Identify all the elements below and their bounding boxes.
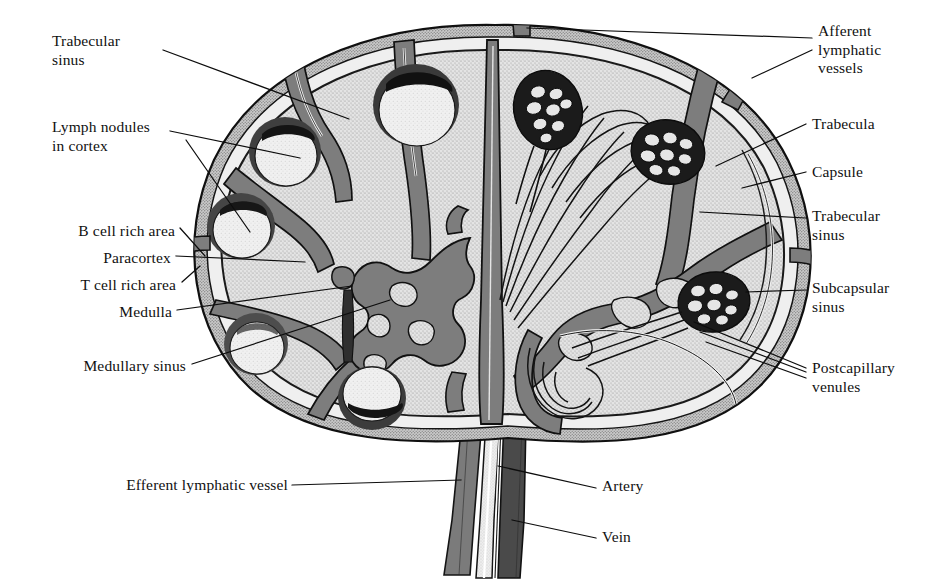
label-artery: Artery xyxy=(602,477,643,496)
label-postcapillary-venules: Postcapillaryvenules xyxy=(812,359,895,396)
lymph-nodule xyxy=(338,366,406,430)
vein-shape xyxy=(498,420,526,578)
label-medullary-sinus: Medullary sinus xyxy=(0,357,186,376)
lymph-nodule xyxy=(249,117,321,187)
label-lymph-nodules-in-cortex: Lymph nodulesin cortex xyxy=(52,118,150,155)
label-trabecular-sinus-left: Trabecularsinus xyxy=(52,32,120,69)
lymph-nodule xyxy=(373,64,459,146)
trabecular-sinus-slit xyxy=(343,290,354,362)
leader-efferent-lymphatic xyxy=(292,480,461,485)
label-medulla: Medulla xyxy=(0,303,172,322)
label-afferent-lymphatic-vessels: Afferentlymphaticvessels xyxy=(818,22,881,78)
label-vein: Vein xyxy=(602,528,631,547)
label-paracortex: Paracortex xyxy=(0,249,171,268)
afferent-lymphatic-vessel xyxy=(722,54,762,110)
leader-afferent-2 xyxy=(752,50,812,78)
lymph-nodule xyxy=(224,313,288,375)
label-trabecular-sinus-right: Trabecularsinus xyxy=(812,207,880,244)
label-efferent-lymphatic-vessel: Efferent lymphatic vessel xyxy=(0,476,288,495)
leader-vein xyxy=(512,520,596,538)
label-b-cell-rich-area: B cell rich area xyxy=(0,222,175,241)
label-subcapsular-sinus: Subcapsularsinus xyxy=(812,279,889,316)
hilum-stalk xyxy=(444,420,526,578)
label-capsule: Capsule xyxy=(812,163,863,182)
lymph-node-figure: Trabecularsinus Lymph nodulesin cortex B… xyxy=(0,0,950,588)
label-trabecula: Trabecula xyxy=(812,115,875,134)
afferent-lymphatic-vessel xyxy=(241,24,283,74)
label-t-cell-rich-area: T cell rich area xyxy=(0,276,176,295)
efferent-lymphatic-vessel-shape xyxy=(444,420,482,575)
lymph-nodule xyxy=(207,193,275,259)
